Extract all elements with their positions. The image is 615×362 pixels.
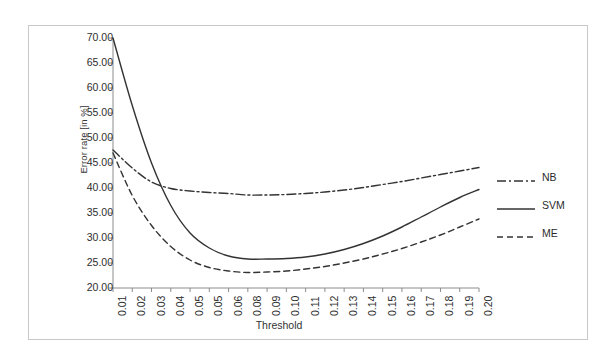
x-axis-tick-label: 0.18 — [444, 296, 455, 316]
x-axis-tick-label: 0.13 — [348, 296, 359, 316]
legend-label: ME — [542, 227, 558, 239]
x-axis-tick-label: 0.02 — [136, 296, 147, 316]
legend-swatch-svm-icon — [496, 200, 536, 210]
legend-label: SVM — [542, 199, 565, 211]
chart-legend: NBSVMME — [496, 163, 588, 247]
x-axis-tick-label: 0.20 — [483, 296, 494, 316]
legend-label: NB — [542, 171, 557, 183]
x-axis-tick-label: 0.11 — [310, 296, 321, 316]
x-axis-title: Threshold — [89, 319, 469, 331]
chart-plot-area: 70.0065.0060.0055.0050.0045.0040.0035.00… — [29, 26, 589, 341]
x-axis-tick-label: 0.05 — [213, 296, 224, 316]
x-axis-tick-label: 0.14 — [367, 296, 378, 316]
x-axis-tick-label: 0.08 — [252, 296, 263, 316]
x-axis-tick-label: 0.15 — [387, 296, 398, 316]
legend-item-nb[interactable]: NB — [496, 163, 588, 191]
legend-swatch-nb-icon — [496, 172, 536, 182]
x-axis-tick-label: 0.01 — [117, 296, 128, 316]
x-axis-tick-label: 0.17 — [425, 296, 436, 316]
x-axis-tick-label: 0.09 — [271, 296, 282, 316]
legend-item-svm[interactable]: SVM — [496, 191, 588, 219]
x-axis-tick-label: 0.04 — [175, 296, 186, 316]
x-axis-tick-label: 0.16 — [406, 296, 417, 316]
x-axis-tick-label: 0.12 — [329, 296, 340, 316]
x-axis-tick-label: 0.05 — [194, 296, 205, 316]
legend-swatch-me-icon — [496, 228, 536, 238]
x-axis-tick-label: 0.06 — [233, 296, 244, 316]
screenshot-page: 70.0065.0060.0055.0050.0045.0040.0035.00… — [0, 0, 615, 362]
x-axis-tick-label: 0.03 — [156, 296, 167, 316]
figure-frame: 70.0065.0060.0055.0050.0045.0040.0035.00… — [28, 25, 588, 340]
x-axis-tick-label: 0.19 — [464, 296, 475, 316]
legend-item-me[interactable]: ME — [496, 219, 588, 247]
x-axis-tick-label: 0.10 — [290, 296, 301, 316]
